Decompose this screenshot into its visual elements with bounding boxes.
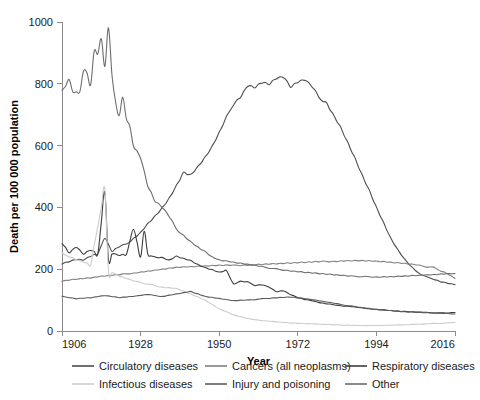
series-line-4 bbox=[62, 291, 455, 314]
series-line-3 bbox=[62, 186, 455, 325]
y-tick-label: 400 bbox=[35, 201, 53, 213]
y-tick-label: 0 bbox=[47, 325, 53, 337]
legend-label: Circulatory diseases bbox=[99, 360, 199, 372]
series-line-2 bbox=[62, 191, 455, 313]
x-tick-label: 1928 bbox=[128, 338, 152, 350]
series-line-1 bbox=[62, 260, 455, 281]
legend-label: Respiratory diseases bbox=[372, 360, 475, 372]
chart-container: 0200400600800100019061928195019721994201… bbox=[0, 0, 480, 400]
x-tick-label: 1972 bbox=[286, 338, 310, 350]
line-chart: 0200400600800100019061928195019721994201… bbox=[0, 0, 480, 400]
series-lines bbox=[62, 28, 455, 326]
y-axis-title: Death per 100 000 population bbox=[8, 100, 20, 253]
y-tick-label: 1000 bbox=[29, 16, 53, 28]
x-tick-label: 1994 bbox=[364, 338, 388, 350]
x-tick-label: 1950 bbox=[207, 338, 231, 350]
legend-label: Other bbox=[372, 378, 400, 390]
legend-label: Injury and poisoning bbox=[232, 378, 330, 390]
y-tick-label: 600 bbox=[35, 140, 53, 152]
x-tick-label: 1906 bbox=[62, 338, 86, 350]
y-tick-label: 200 bbox=[35, 263, 53, 275]
x-tick-label: 2016 bbox=[431, 338, 455, 350]
legend-label: Cancers (all neoplasms) bbox=[232, 360, 351, 372]
series-line-5 bbox=[62, 28, 455, 278]
y-tick-label: 800 bbox=[35, 78, 53, 90]
chart-legend: Circulatory diseasesCancers (all neoplas… bbox=[72, 360, 475, 390]
legend-label: Infectious diseases bbox=[99, 378, 193, 390]
